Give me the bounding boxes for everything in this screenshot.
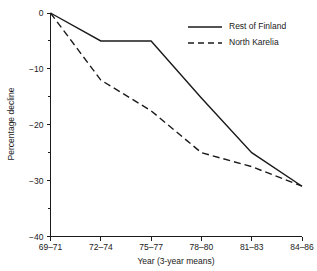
y-tick-label: −30 — [29, 176, 44, 186]
y-tick-label: −10 — [29, 64, 44, 74]
x-tick-label: 81–83 — [240, 242, 264, 252]
x-axis-title: Year (3-year means) — [137, 256, 214, 266]
y-tick-label: −40 — [29, 232, 44, 242]
y-axis-tick-labels: 0−10−20−30−40 — [29, 8, 44, 242]
y-tick-label: −20 — [29, 120, 44, 130]
x-tick-label: 84–86 — [290, 242, 314, 252]
x-axis-tick-labels: 69–7172–7475–7778–8081–8384–86 — [39, 242, 314, 252]
y-tick-label: 0 — [39, 8, 44, 18]
legend-label-2: North Karelia — [229, 37, 279, 47]
x-tick-label: 75–77 — [139, 242, 163, 252]
legend-label-1: Rest of Finland — [229, 21, 286, 31]
chart-figure: 0−10−20−30−40 Percentage decline 69–7172… — [0, 0, 317, 271]
x-tick-label: 72–74 — [89, 242, 113, 252]
x-axis: 69–7172–7475–7778–8081–8384–86 Year (3-y… — [39, 237, 314, 267]
y-axis-title: Percentage decline — [6, 87, 16, 160]
y-axis: 0−10−20−30−40 Percentage decline — [6, 8, 51, 242]
x-tick-label: 78–80 — [190, 242, 214, 252]
chart-legend: Rest of FinlandNorth Karelia — [188, 21, 286, 47]
line-chart: 0−10−20−30−40 Percentage decline 69–7172… — [0, 0, 317, 271]
x-tick-label: 69–71 — [39, 242, 63, 252]
y-axis-major-ticks — [47, 13, 51, 237]
x-axis-ticks — [51, 237, 303, 241]
